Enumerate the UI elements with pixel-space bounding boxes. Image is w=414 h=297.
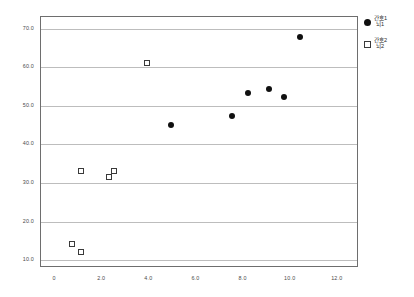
legend-entry-series-2: 간호2 뇌2 <box>364 38 414 60</box>
y-axis-tick-label: 40.0 <box>6 140 34 146</box>
gridline-y <box>41 67 357 68</box>
gridline-y <box>41 144 357 145</box>
y-axis-tick-label: 10.0 <box>6 256 34 262</box>
gridline-y <box>41 29 357 30</box>
data-point-series-2 <box>69 241 75 247</box>
data-point-series-1 <box>297 34 303 40</box>
legend-label-series-2: 간호2 뇌2 <box>374 37 387 50</box>
x-axis-tick-label: 12.0 <box>331 275 342 281</box>
data-point-series-1 <box>266 86 272 92</box>
gridline-y <box>41 222 357 223</box>
x-axis-tick-label: 6.0 <box>191 275 199 281</box>
gridline-y <box>41 260 357 261</box>
x-axis-tick-label: 8.0 <box>239 275 247 281</box>
y-axis-tick-label: 50.0 <box>6 102 34 108</box>
x-axis-tick-label: 2.0 <box>97 275 105 281</box>
data-point-series-2 <box>78 168 84 174</box>
plot-area <box>40 16 358 267</box>
data-point-series-2 <box>106 174 112 180</box>
legend-label-series-1-line2: 뇌1 <box>376 21 387 27</box>
data-point-series-1 <box>168 122 174 128</box>
y-axis-tick-label: 30.0 <box>6 179 34 185</box>
data-point-series-1 <box>229 113 235 119</box>
legend-entry-series-1: 간호1 뇌1 <box>364 16 414 38</box>
x-axis-tick-label: 0 <box>53 275 56 281</box>
data-point-series-2 <box>144 60 150 66</box>
y-axis-tick-label: 60.0 <box>6 63 34 69</box>
data-point-series-1 <box>281 94 287 100</box>
x-axis-tick-label: 4.0 <box>144 275 152 281</box>
filled-circle-marker-icon <box>364 19 371 26</box>
data-point-series-2 <box>111 168 117 174</box>
y-axis-tick-label: 20.0 <box>6 218 34 224</box>
legend-label-series-1: 간호1 뇌1 <box>374 15 387 28</box>
scatter-chart: 간호1 뇌1 간호2 뇌2 10.020.030.040.050.060.070… <box>0 0 414 297</box>
data-point-series-1 <box>245 90 251 96</box>
y-axis-tick-label: 70.0 <box>6 25 34 31</box>
chart-legend: 간호1 뇌1 간호2 뇌2 <box>364 16 414 60</box>
open-square-marker-icon <box>364 41 371 48</box>
data-point-series-2 <box>78 249 84 255</box>
legend-label-series-2-line2: 뇌2 <box>376 43 387 49</box>
gridline-y <box>41 183 357 184</box>
x-axis-tick-label: 10.0 <box>284 275 295 281</box>
gridline-y <box>41 106 357 107</box>
